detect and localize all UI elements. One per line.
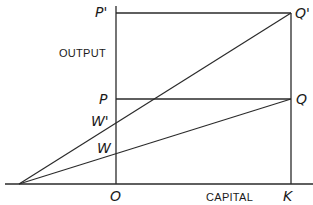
ray-to-q xyxy=(19,99,291,184)
label-w: W xyxy=(97,141,111,155)
label-q-prime: Q' xyxy=(295,6,310,20)
label-q: Q xyxy=(296,92,307,106)
axis-label-capital: CAPITAL xyxy=(206,192,253,203)
production-diagram xyxy=(0,0,313,205)
label-p: P xyxy=(99,92,107,106)
label-k: K xyxy=(283,189,292,203)
label-origin-o: O xyxy=(110,189,121,203)
label-p-prime: P' xyxy=(95,5,107,19)
label-w-prime: W' xyxy=(91,114,109,128)
axis-label-output: OUTPUT xyxy=(59,48,106,59)
